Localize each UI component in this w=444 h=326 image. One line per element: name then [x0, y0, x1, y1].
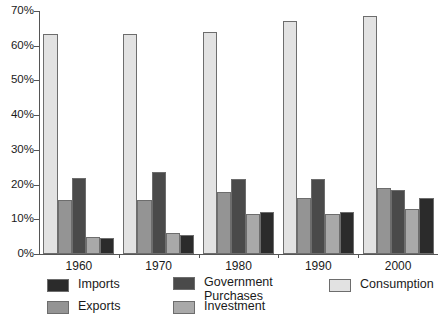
bar-investment-1960 — [86, 237, 100, 254]
legend-item-imports[interactable]: Imports — [47, 278, 120, 292]
x-axis-tick-label-1980: 1980 — [204, 259, 274, 273]
bar-exports-1980 — [217, 192, 231, 254]
bar-consumption-1990 — [283, 21, 297, 254]
bar-chart: 0%10%20%30%40%50%60%70% 1960197019801990… — [0, 0, 444, 326]
x-axis-line — [39, 254, 438, 255]
bar-investment-1970 — [166, 233, 180, 254]
bar-imports-2000 — [419, 198, 433, 254]
legend-label: Consumption — [360, 278, 434, 292]
bar-group — [203, 11, 274, 254]
clipped-title-strip — [0, 0, 444, 5]
legend-label: Investment — [204, 300, 265, 314]
bar-imports-1990 — [340, 212, 354, 254]
bar-government-purchases-1960 — [72, 178, 86, 254]
y-axis-tick-mark — [34, 254, 39, 255]
bar-exports-2000 — [377, 188, 391, 254]
bar-consumption-2000 — [363, 16, 377, 254]
bar-investment-1990 — [325, 214, 339, 254]
legend-swatch-icon — [47, 279, 69, 292]
y-axis-tick-label: 20% — [0, 179, 34, 190]
bar-imports-1960 — [100, 238, 114, 254]
bar-government-purchases-1980 — [231, 179, 245, 254]
y-axis-tick-label: 30% — [0, 144, 34, 155]
plot-area — [39, 11, 438, 254]
y-axis-tick-label: 0% — [0, 248, 34, 259]
legend-swatch-icon — [47, 301, 69, 314]
x-axis-tick-label-1990: 1990 — [283, 259, 353, 273]
bar-group — [363, 11, 434, 254]
chart-legend: ImportsExportsGovernment PurchasesInvest… — [0, 276, 444, 326]
bar-exports-1960 — [58, 200, 72, 254]
legend-item-consumption[interactable]: Consumption — [329, 278, 434, 292]
bar-government-purchases-2000 — [391, 190, 405, 254]
bar-consumption-1980 — [203, 32, 217, 254]
bar-imports-1970 — [180, 235, 194, 254]
x-axis-tick-mark — [199, 254, 200, 258]
y-axis-tick-label: 50% — [0, 74, 34, 85]
x-axis-tick-mark — [358, 254, 359, 258]
x-axis-tick-label-1960: 1960 — [44, 259, 114, 273]
legend-swatch-icon — [173, 277, 195, 290]
x-axis-tick-mark — [278, 254, 279, 258]
bar-group — [123, 11, 194, 254]
x-axis-tick-label-2000: 2000 — [363, 259, 433, 273]
legend-swatch-icon — [173, 301, 195, 314]
bar-consumption-1960 — [43, 34, 57, 254]
bar-imports-1980 — [260, 212, 274, 254]
legend-item-investment[interactable]: Investment — [173, 300, 265, 314]
y-axis-tick-label: 60% — [0, 40, 34, 51]
bar-investment-1980 — [246, 214, 260, 254]
legend-item-exports[interactable]: Exports — [47, 300, 120, 314]
bar-government-purchases-1990 — [311, 179, 325, 254]
bar-consumption-1970 — [123, 34, 137, 254]
bar-exports-1990 — [297, 198, 311, 254]
legend-label: Imports — [78, 278, 120, 292]
legend-swatch-icon — [329, 279, 351, 292]
bar-government-purchases-1970 — [152, 172, 166, 254]
y-axis-tick-label: 10% — [0, 213, 34, 224]
bar-group — [283, 11, 354, 254]
legend-label: Exports — [78, 300, 120, 314]
bar-exports-1970 — [137, 200, 151, 254]
x-axis-tick-mark — [119, 254, 120, 258]
bar-investment-2000 — [405, 209, 419, 254]
y-axis-tick-label: 70% — [0, 5, 34, 16]
y-axis-tick-label: 40% — [0, 109, 34, 120]
x-axis-tick-label-1970: 1970 — [124, 259, 194, 273]
bar-group — [43, 11, 114, 254]
